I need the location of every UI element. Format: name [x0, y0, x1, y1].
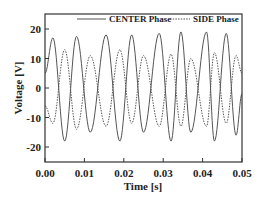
y-tick-label: -10 [26, 112, 41, 124]
plot-lines [45, 32, 242, 141]
legend: CENTER Phase SIDE Phase [77, 14, 239, 24]
plot-frame [45, 14, 242, 162]
y-tick-label: 0 [36, 82, 42, 94]
x-axis-title: Time [s] [124, 180, 163, 192]
y-tick-label: -20 [26, 141, 41, 153]
voltage-chart: 20100-10-20 0.000.010.020.030.040.05 Tim… [0, 0, 265, 201]
x-tick-label: 0.05 [232, 167, 252, 179]
x-tick-label: 0.04 [193, 167, 213, 179]
legend-side-label: SIDE Phase [193, 14, 239, 24]
x-tick-label: 0.02 [114, 167, 134, 179]
legend-center-label: CENTER Phase [109, 14, 171, 24]
x-tick-label: 0.03 [154, 167, 174, 179]
x-tick-label: 0.00 [35, 167, 55, 179]
y-axis-title: Voltage [V] [12, 61, 24, 114]
y-tick-label: 10 [30, 53, 42, 65]
y-tick-label: 20 [30, 23, 42, 35]
x-axis-ticks: 0.000.010.020.030.040.05 [35, 158, 252, 179]
x-tick-label: 0.01 [75, 167, 94, 179]
